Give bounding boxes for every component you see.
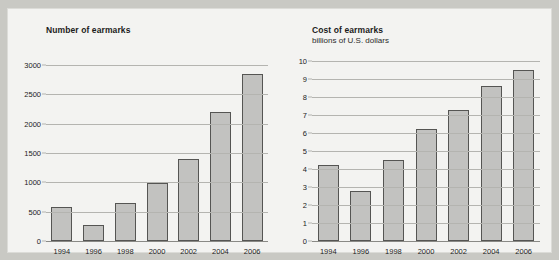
y-axis-label: 5 bbox=[303, 147, 307, 156]
gridline bbox=[46, 212, 268, 213]
x-axis-label: 1998 bbox=[385, 247, 402, 256]
y-axis-label: 3 bbox=[303, 183, 307, 192]
gridline bbox=[46, 153, 268, 154]
y-axis-label: 9 bbox=[303, 75, 307, 84]
x-axis-label: 2004 bbox=[212, 247, 229, 256]
y-tick-mark bbox=[308, 169, 312, 170]
bar bbox=[178, 159, 199, 241]
chart-number-of-earmarks: Number of earmarks 050010001500200025003… bbox=[8, 9, 280, 252]
gridline bbox=[312, 151, 540, 152]
charts-panel: Number of earmarks 050010001500200025003… bbox=[8, 9, 551, 252]
y-axis-label: 0 bbox=[37, 237, 41, 246]
x-axis-label: 2006 bbox=[515, 247, 532, 256]
gridline bbox=[46, 124, 268, 125]
y-tick-mark bbox=[308, 223, 312, 224]
bar bbox=[115, 203, 136, 241]
y-axis-label: 2 bbox=[303, 201, 307, 210]
y-axis-label: 1000 bbox=[24, 178, 41, 187]
x-axis-label: 1994 bbox=[320, 247, 337, 256]
bar bbox=[210, 112, 231, 241]
y-tick-mark bbox=[308, 205, 312, 206]
bar bbox=[318, 165, 339, 241]
plot-area-left: 0500100015002000250030001994199619982000… bbox=[46, 65, 268, 241]
y-axis-label: 1500 bbox=[24, 149, 41, 158]
x-axis-label: 1996 bbox=[85, 247, 102, 256]
gridline bbox=[312, 223, 540, 224]
y-tick-mark bbox=[42, 182, 46, 183]
bar bbox=[350, 191, 371, 241]
y-tick-mark bbox=[308, 133, 312, 134]
x-axis-label: 2000 bbox=[418, 247, 435, 256]
gridline bbox=[312, 187, 540, 188]
x-axis-label: 2000 bbox=[149, 247, 166, 256]
y-tick-mark bbox=[42, 153, 46, 154]
y-tick-mark bbox=[308, 97, 312, 98]
gridline bbox=[312, 241, 540, 242]
x-axis-label: 2004 bbox=[483, 247, 500, 256]
y-tick-mark bbox=[308, 61, 312, 62]
x-axis-label: 1996 bbox=[353, 247, 370, 256]
gridline bbox=[46, 182, 268, 183]
y-tick-mark bbox=[308, 79, 312, 80]
bar bbox=[83, 225, 104, 241]
y-axis-label: 7 bbox=[303, 111, 307, 120]
y-axis-label: 500 bbox=[28, 207, 41, 216]
y-axis-label: 6 bbox=[303, 129, 307, 138]
gridline bbox=[312, 97, 540, 98]
y-axis-label: 2500 bbox=[24, 90, 41, 99]
gridline bbox=[312, 169, 540, 170]
gridline bbox=[46, 94, 268, 95]
gridline bbox=[312, 205, 540, 206]
y-axis-label: 10 bbox=[299, 57, 307, 66]
gridline bbox=[46, 241, 268, 242]
y-axis-label: 8 bbox=[303, 93, 307, 102]
y-axis-label: 2000 bbox=[24, 119, 41, 128]
y-axis-label: 3000 bbox=[24, 61, 41, 70]
y-axis-label: 1 bbox=[303, 219, 307, 228]
gridline bbox=[312, 79, 540, 80]
gridline bbox=[46, 65, 268, 66]
chart-cost-of-earmarks: Cost of earmarks billions of U.S. dollar… bbox=[280, 9, 551, 252]
x-axis-label: 1994 bbox=[54, 247, 71, 256]
y-tick-mark bbox=[308, 115, 312, 116]
x-axis-label: 1998 bbox=[117, 247, 134, 256]
gridline bbox=[312, 115, 540, 116]
chart-subtitle-right: billions of U.S. dollars bbox=[312, 36, 389, 45]
y-tick-mark bbox=[42, 65, 46, 66]
y-tick-mark bbox=[42, 94, 46, 95]
x-axis-label: 2002 bbox=[450, 247, 467, 256]
bar bbox=[383, 160, 404, 241]
y-tick-mark bbox=[42, 123, 46, 124]
y-tick-mark bbox=[42, 211, 46, 212]
y-tick-mark bbox=[308, 187, 312, 188]
bar bbox=[481, 86, 502, 241]
bar bbox=[242, 74, 263, 241]
x-axis-label: 2006 bbox=[244, 247, 261, 256]
y-tick-mark bbox=[308, 151, 312, 152]
gridline bbox=[312, 61, 540, 62]
bar bbox=[513, 70, 534, 241]
y-tick-mark bbox=[42, 241, 46, 242]
gridline bbox=[312, 133, 540, 134]
y-axis-label: 4 bbox=[303, 165, 307, 174]
bar bbox=[416, 129, 437, 241]
chart-title-right: Cost of earmarks bbox=[312, 25, 383, 35]
x-axis-label: 2002 bbox=[180, 247, 197, 256]
y-tick-mark bbox=[308, 241, 312, 242]
page-root: Number of earmarks 050010001500200025003… bbox=[0, 0, 559, 260]
plot-area-right: 0123456789101994199619982000200220042006 bbox=[312, 61, 540, 241]
bar bbox=[448, 110, 469, 241]
chart-title-left: Number of earmarks bbox=[46, 25, 130, 35]
y-axis-label: 0 bbox=[303, 237, 307, 246]
